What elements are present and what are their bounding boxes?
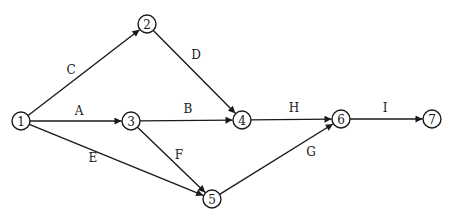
edge-labels-layer: CAEDBFHGI xyxy=(66,48,387,165)
edge-label-c: C xyxy=(66,63,75,77)
node-label: 2 xyxy=(143,18,151,32)
node-label: 7 xyxy=(428,113,436,127)
edge-label-g: G xyxy=(306,145,316,159)
node-1: 1 xyxy=(12,112,30,130)
node-3: 3 xyxy=(122,112,140,130)
edge-label-h: H xyxy=(289,101,299,115)
edge-label-a: A xyxy=(74,104,84,118)
node-4: 4 xyxy=(233,111,251,129)
edge-label-d: D xyxy=(191,48,201,62)
node-7: 7 xyxy=(423,110,441,128)
node-2: 2 xyxy=(138,15,156,33)
node-label: 6 xyxy=(337,113,345,127)
node-5: 5 xyxy=(203,190,221,208)
edge-d-2-to-4 xyxy=(153,30,235,113)
edge-label-b: B xyxy=(184,102,193,116)
edge-g-5-to-6 xyxy=(220,124,333,194)
node-label: 1 xyxy=(17,115,25,129)
edge-label-f: F xyxy=(175,148,183,162)
node-label: 5 xyxy=(208,193,216,207)
edges-layer xyxy=(28,30,422,196)
node-label: 4 xyxy=(238,114,246,128)
edge-label-i: I xyxy=(383,101,388,115)
edge-h-4-to-6 xyxy=(251,119,332,120)
node-label: 3 xyxy=(127,115,135,129)
network-diagram: CAEDBFHGI 1234567 xyxy=(0,0,455,223)
edge-c-1-to-2 xyxy=(28,30,139,116)
edge-b-3-to-4 xyxy=(140,120,233,121)
node-6: 6 xyxy=(332,110,350,128)
edge-label-e: E xyxy=(89,151,98,165)
